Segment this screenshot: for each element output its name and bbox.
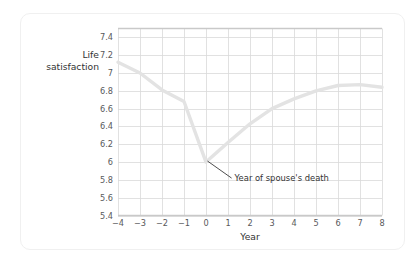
annotation-label: Year of spouse's death [234, 173, 329, 183]
x-tick-label: 4 [291, 218, 296, 228]
x-tick-label: 2 [247, 218, 252, 228]
y-tick-label: 6.2 [100, 139, 113, 149]
x-tick-label: 0 [203, 218, 208, 228]
x-axis-tick-labels: −4−3−2−1012345678 [112, 218, 385, 228]
horizontal-gridlines [118, 38, 382, 217]
x-tick-label: 5 [313, 218, 318, 228]
x-tick-label: −4 [112, 218, 124, 228]
y-axis-title-line-1: Life [82, 49, 99, 60]
y-tick-label: 6.6 [100, 104, 113, 114]
x-tick-label: 3 [269, 218, 274, 228]
x-tick-label: 8 [379, 218, 384, 228]
x-tick-label: −2 [156, 218, 168, 228]
x-axis-title: Year [239, 231, 260, 242]
y-tick-label: 5.8 [100, 175, 113, 185]
y-tick-label: 7 [108, 68, 113, 78]
x-tick-label: 1 [225, 218, 230, 228]
y-tick-label: 7.2 [100, 50, 113, 60]
x-tick-label: −1 [178, 218, 190, 228]
life-satisfaction-line-chart: 5.45.65.866.26.46.66.877.27.4 −4−3−2−101… [0, 0, 420, 263]
data-series-line [118, 62, 382, 162]
x-tick-label: −3 [134, 218, 146, 228]
y-tick-label: 6.8 [100, 86, 113, 96]
y-axis-tick-labels: 5.45.65.866.26.46.66.877.27.4 [100, 32, 113, 220]
x-tick-label: 6 [335, 218, 340, 228]
annotation-leader-line [208, 161, 232, 178]
y-axis-title-line-2: satisfaction [46, 61, 99, 72]
y-tick-label: 7.4 [100, 32, 113, 42]
y-tick-label: 6.4 [100, 121, 113, 131]
y-tick-label: 5.6 [100, 193, 113, 203]
x-tick-label: 7 [357, 218, 362, 228]
y-tick-label: 6 [108, 157, 113, 167]
